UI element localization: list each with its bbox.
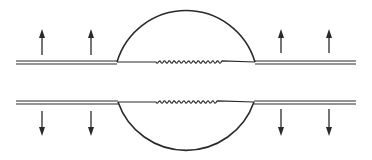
arrow-up-icon bbox=[39, 29, 45, 55]
arrow-up-icon bbox=[88, 29, 94, 55]
lower-circle-arc bbox=[118, 102, 254, 150]
arrow-up-icon bbox=[326, 29, 332, 53]
lower-plate-left bbox=[16, 101, 118, 104]
arrow-up-icon bbox=[278, 29, 284, 53]
arrow-down-icon bbox=[326, 109, 332, 136]
arrow-down-icon bbox=[39, 111, 45, 136]
upper-plate-left bbox=[16, 61, 117, 64]
arrow-down-icon bbox=[88, 111, 94, 136]
lower-wavy-interface bbox=[118, 101, 254, 104]
arrow-down-icon bbox=[278, 109, 284, 136]
upper-wavy-interface bbox=[117, 61, 255, 64]
plate-bubble-diagram bbox=[0, 0, 372, 160]
lower-plate-right bbox=[254, 101, 356, 104]
upper-plate-right bbox=[255, 61, 356, 64]
upper-circle-arc bbox=[117, 11, 255, 62]
